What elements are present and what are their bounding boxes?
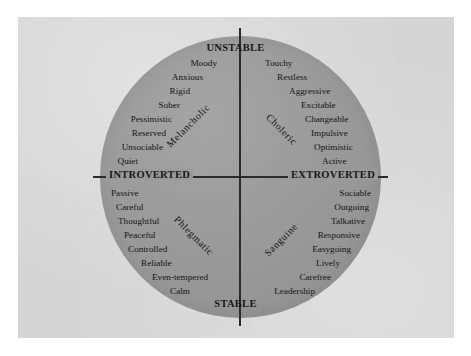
trait-word: Even-tempered [152,273,208,282]
trait-word: Reserved [132,129,166,138]
trait-word: Carefree [299,273,331,282]
trait-word: Excitable [301,101,336,110]
trait-word: Controlled [128,245,167,254]
trait-word: Aggressive [289,87,330,96]
trait-word: Unsociable [122,143,163,152]
trait-word: Easygoing [312,245,351,254]
trait-word: Active [322,157,347,166]
trait-word: Touchy [265,59,292,68]
trait-word: Lively [316,259,340,268]
trait-word: Moody [190,59,217,68]
axis-pole-label-stable: STABLE [0,298,471,309]
axis-pole-label-introverted: INTROVERTED [106,169,193,180]
trait-word: Rigid [170,87,190,96]
trait-word: Changeable [305,115,348,124]
trait-word: Outgoing [334,203,369,212]
trait-word: Careful [116,203,144,212]
trait-word: Sober [159,101,180,110]
trait-word: Responsive [318,231,360,240]
trait-word: Sociable [339,189,371,198]
trait-word: Calm [170,287,190,296]
trait-word: Peaceful [124,231,156,240]
trait-word: Talkative [331,217,365,226]
trait-word: Anxious [172,73,203,82]
trait-word: Thoughtful [118,217,159,226]
trait-word: Leadership [274,287,315,296]
trait-word: Impulsive [311,129,348,138]
eysenck-personality-circle-figure: UNSTABLE STABLE INTROVERTED EXTROVERTED … [0,0,471,356]
trait-word: Reliable [141,259,172,268]
trait-word: Restless [277,73,307,82]
trait-word: Optimistic [314,143,353,152]
trait-word: Quiet [118,157,138,166]
axis-pole-label-extroverted: EXTROVERTED [288,169,378,180]
trait-word: Passive [111,189,139,198]
axis-pole-label-unstable: UNSTABLE [0,42,471,53]
trait-word: Pessimistic [131,115,172,124]
